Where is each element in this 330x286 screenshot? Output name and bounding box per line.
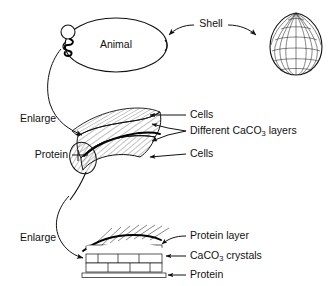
- cross-section-tail: [70, 172, 86, 200]
- brick-row-1: [86, 245, 162, 254]
- shell-dome-figure: [270, 13, 322, 75]
- animal-label: Animal: [100, 38, 132, 50]
- enlarge-label-2: Enlarge: [20, 231, 56, 243]
- crystal-structure-figure: [82, 225, 169, 278]
- different-layers-suffix: layers: [266, 124, 297, 136]
- caco3-crystal-bricks: [86, 245, 162, 272]
- caco3-crystals-suffix: crystals: [223, 249, 262, 261]
- diagram-canvas: Animal: [0, 0, 330, 286]
- cells-upper-label: Cells: [190, 108, 213, 120]
- brick-row-2: [86, 254, 162, 263]
- enlarge-label-1: Enlarge: [20, 112, 56, 124]
- protein-layer-curve: [83, 235, 161, 251]
- caco3-crystals-text: CaCO: [190, 249, 219, 261]
- protein-layer-leader: [162, 236, 186, 244]
- brick-row-3: [86, 263, 162, 272]
- shell-structure-diagram: Animal: [0, 0, 330, 286]
- enlarge-arrow-2: [56, 196, 83, 258]
- protein-mid-label: Protein: [35, 148, 68, 160]
- shell-arrow-to-animal: [169, 25, 194, 35]
- cells-lower-leader: [150, 154, 186, 157]
- protein-bottom-label: Protein: [190, 268, 223, 280]
- different-layers-text: Different CaCO: [190, 124, 262, 136]
- shell-cross-section-figure: [66, 108, 161, 200]
- cells-lower-label: Cells: [190, 147, 213, 159]
- caco3-crystals-label: CaCO3 crystals: [190, 249, 262, 263]
- shell-arrow-to-dome: [228, 25, 256, 35]
- protein-layer-label: Protein layer: [190, 229, 249, 241]
- shell-label: Shell: [199, 17, 222, 29]
- animal-head-icon: [61, 25, 75, 39]
- different-layers-label: Different CaCO3 layers: [190, 124, 297, 138]
- bottom-protein-sheet: [82, 273, 166, 278]
